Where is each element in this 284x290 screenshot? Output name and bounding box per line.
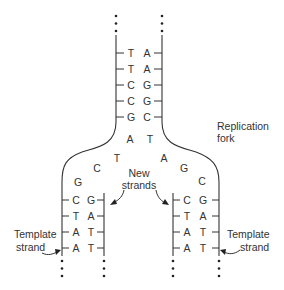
parental-duplex: T A T A C G C G G C: [116, 47, 162, 123]
base: A: [87, 210, 94, 222]
base: A: [183, 226, 190, 238]
base: C: [72, 194, 80, 206]
base: C: [198, 175, 206, 187]
base: G: [127, 111, 135, 123]
base: G: [143, 95, 151, 107]
base: T: [88, 226, 95, 238]
svg-text:Replication: Replication: [217, 120, 269, 132]
template-strand-right-label: Template strand: [227, 228, 270, 253]
base: C: [143, 111, 151, 123]
svg-text:fork: fork: [217, 132, 235, 144]
replication-fork-diagram: T A T A C G C G G C A T C G T A G C: [0, 0, 284, 290]
base: A: [160, 152, 167, 164]
svg-text:New: New: [128, 167, 149, 179]
svg-text:Template: Template: [227, 228, 270, 240]
base: A: [143, 63, 150, 75]
base: T: [88, 242, 95, 254]
base: T: [114, 152, 121, 164]
base: C: [93, 162, 101, 174]
left-parental-strand: [62, 35, 116, 256]
base: T: [128, 63, 135, 75]
template-strand-left-label: Template strand: [14, 228, 57, 253]
base: A: [126, 133, 133, 145]
top-left-continuation-dots: [115, 15, 118, 33]
base: C: [127, 79, 135, 91]
base: T: [147, 133, 154, 145]
right-daughter-duplex: C G T A A T A T: [173, 194, 219, 254]
base: G: [74, 176, 82, 188]
base: T: [73, 210, 80, 222]
base: A: [72, 226, 79, 238]
svg-text:Template: Template: [14, 228, 57, 240]
arrowhead-icon: [220, 249, 226, 255]
bottom-continuation-dots: [61, 260, 221, 278]
base: G: [180, 162, 188, 174]
arrowhead-icon: [55, 249, 61, 255]
base: T: [184, 210, 191, 222]
new-strand-right-arrow-icon: [156, 190, 165, 203]
replication-fork-label: Replication fork: [217, 120, 269, 144]
svg-text:strands: strands: [122, 179, 156, 191]
base: C: [183, 194, 191, 206]
right-parental-strand: [162, 35, 219, 256]
base: G: [87, 194, 95, 206]
arrowhead-icon: [110, 199, 117, 205]
base: A: [143, 47, 150, 59]
base: A: [199, 210, 206, 222]
template-right-arrow-icon: [224, 250, 240, 254]
base: A: [72, 242, 79, 254]
left-daughter-duplex: C G T A A T A T: [62, 194, 104, 254]
base: A: [183, 242, 190, 254]
base: G: [199, 194, 207, 206]
svg-text:strand: strand: [16, 241, 45, 253]
top-right-continuation-dots: [161, 15, 164, 33]
base: G: [143, 79, 151, 91]
base: C: [127, 95, 135, 107]
base: T: [128, 47, 135, 59]
new-strands-label: New strands: [122, 167, 156, 191]
base: T: [200, 226, 207, 238]
base: T: [200, 242, 207, 254]
svg-text:strand: strand: [240, 241, 269, 253]
